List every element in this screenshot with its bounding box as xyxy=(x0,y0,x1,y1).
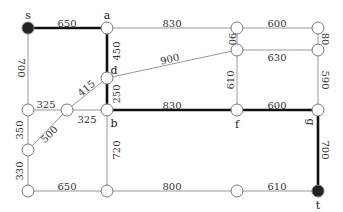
node-a xyxy=(101,22,113,34)
node-n6 xyxy=(61,104,73,116)
edge-weight-label: 630 xyxy=(267,52,286,63)
node-n2 xyxy=(312,22,324,34)
edge-weight-label: 600 xyxy=(267,18,286,29)
edge-weight-label: 415 xyxy=(76,78,98,99)
node-t xyxy=(312,185,324,197)
node-s xyxy=(22,22,34,34)
edge-weight-label: 590 xyxy=(320,70,331,89)
node-n10 xyxy=(231,185,243,197)
node-label-a: a xyxy=(104,9,111,22)
node-n7 xyxy=(22,144,34,156)
node-label-s: s xyxy=(25,9,31,22)
edge-weight-label: 350 xyxy=(14,120,25,139)
edge-weight-label: 325 xyxy=(36,99,55,110)
node-n1 xyxy=(231,22,243,34)
node-n4 xyxy=(312,44,324,56)
edge-weight-label: 610 xyxy=(267,181,286,192)
node-b xyxy=(101,104,113,116)
edge-weight-label: 330 xyxy=(14,161,25,180)
node-n9 xyxy=(101,185,113,197)
edge-weight-label: 830 xyxy=(162,18,181,29)
edge-weight-label: 830 xyxy=(162,100,181,111)
edge-weight-label: 450 xyxy=(111,41,122,60)
edge-weight-label: 90 xyxy=(227,33,238,46)
node-label-d: d xyxy=(110,64,117,77)
node-label-t: t xyxy=(316,199,321,212)
edge-weight-label: 800 xyxy=(162,181,181,192)
node-label-b: b xyxy=(110,117,117,130)
node-f xyxy=(231,104,243,116)
edge-weight-label: 600 xyxy=(267,100,286,111)
edge-weight-label: 250 xyxy=(111,84,122,103)
edge-weight-label: 650 xyxy=(57,18,76,29)
weighted-graph-diagram: 6508306009080630450900700250325415325830… xyxy=(0,0,343,212)
edge-weight-label: 325 xyxy=(77,114,96,125)
edge-weight-label: 700 xyxy=(16,58,27,77)
edge-weight-label: 80 xyxy=(320,33,331,46)
node-n3 xyxy=(231,44,243,56)
edge-weight-label: 500 xyxy=(39,124,60,145)
node-n5 xyxy=(22,104,34,116)
edge-weight-label: 720 xyxy=(111,140,122,159)
edge-weight-label: 610 xyxy=(225,70,236,89)
node-n8 xyxy=(22,185,34,197)
node-label-f: f xyxy=(235,118,240,131)
edge-weight-label: 900 xyxy=(159,51,180,66)
node-label-g: g xyxy=(304,118,317,125)
edge-weights-layer: 6508306009080630450900700250325415325830… xyxy=(14,18,331,192)
edge-weight-label: 650 xyxy=(57,181,76,192)
edge-weight-label: 700 xyxy=(320,140,331,159)
node-g xyxy=(312,104,324,116)
